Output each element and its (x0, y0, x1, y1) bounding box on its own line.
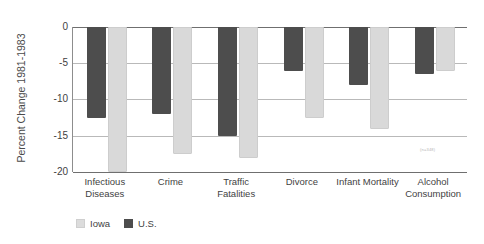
legend-item-us: U.S. (124, 218, 156, 229)
x-axis-label: Traffic Fatalities (203, 176, 269, 199)
bar-iowa (370, 27, 389, 129)
y-tick-0: 0 (38, 22, 68, 32)
bar-iowa (173, 27, 192, 154)
bar-us (284, 27, 303, 71)
bar-iowa (305, 27, 324, 118)
y-tick--5: -5 (38, 58, 68, 68)
x-axis-label: Infant Mortality (335, 176, 401, 188)
bar-us (218, 27, 237, 136)
bar-us (415, 27, 434, 74)
bar-group (336, 27, 402, 172)
bar-chart-figure: Percent Change 1981-1983 0 -5 -10 -15 -2… (0, 0, 484, 244)
plot-area (72, 27, 467, 172)
bar-group (139, 27, 205, 172)
bar-us (152, 27, 171, 114)
source-note: (n=348) (420, 147, 435, 152)
legend-item-iowa: Iowa (76, 218, 110, 229)
y-tick--10: -10 (38, 94, 68, 104)
y-tick--20: -20 (38, 167, 68, 177)
bar-group (73, 27, 139, 172)
bar-group (270, 27, 336, 172)
x-axis-label: Divorce (269, 176, 335, 188)
legend-label-iowa: Iowa (90, 218, 110, 229)
bars-layer (73, 27, 467, 172)
x-axis-label: Crime (138, 176, 204, 188)
legend-swatch-iowa-icon (76, 219, 85, 228)
y-axis-title-text: Percent Change 1981-1983 (15, 33, 27, 162)
bar-us (349, 27, 368, 85)
legend-swatch-us-icon (124, 219, 133, 228)
y-axis-tick-labels: 0 -5 -10 -15 -20 (36, 0, 68, 244)
x-axis-category-labels: Infectious DiseasesCrimeTraffic Fataliti… (72, 176, 466, 210)
y-axis-title: Percent Change 1981-1983 (10, 14, 32, 182)
bar-us (87, 27, 106, 118)
gridline--20 (73, 172, 467, 173)
chart-legend: Iowa U.S. (72, 215, 336, 231)
x-axis-label: Infectious Diseases (72, 176, 138, 199)
bar-iowa (436, 27, 455, 71)
bar-iowa (239, 27, 258, 158)
bar-iowa (108, 27, 127, 172)
x-axis-label: Alcohol Consumption (400, 176, 466, 199)
bar-group (204, 27, 270, 172)
y-tick--15: -15 (38, 131, 68, 141)
legend-label-us: U.S. (138, 218, 156, 229)
